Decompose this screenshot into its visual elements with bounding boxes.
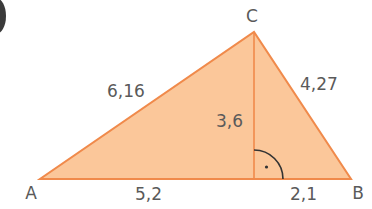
- side-ac-length: 6,16: [107, 81, 145, 101]
- vertex-label-c: C: [246, 6, 258, 26]
- vertex-label-b: B: [352, 183, 364, 203]
- altitude-ch-length: 3,6: [216, 111, 243, 131]
- segment-hb-length: 2,1: [290, 184, 317, 204]
- vertex-label-a: A: [25, 183, 37, 203]
- section-marker-icon: [0, 0, 6, 34]
- triangle-abc: [40, 32, 351, 179]
- segment-ah-length: 5,2: [135, 184, 162, 204]
- triangle-diagram: C A B 6,16 4,27 3,6 5,2 2,1: [0, 0, 372, 209]
- right-angle-dot-icon: [265, 165, 268, 168]
- side-bc-length: 4,27: [300, 74, 338, 94]
